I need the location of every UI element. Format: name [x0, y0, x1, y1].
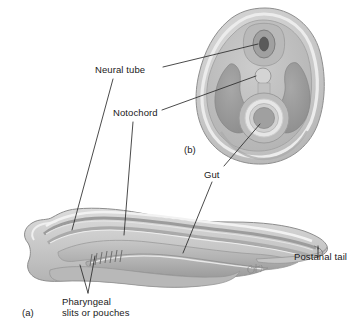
cross-section-group — [196, 8, 324, 164]
lateral-view-group — [25, 208, 328, 287]
leader-neural-tube-to-lv — [72, 79, 113, 230]
xs-notochord — [255, 68, 271, 84]
xs-neural-tube-lumen — [259, 37, 268, 51]
panel-tag-a: (a) — [22, 307, 34, 318]
diagram-artwork — [0, 0, 361, 330]
label-pharyngeal-slits: Pharyngeal slits or pouches — [62, 296, 130, 318]
xs-gut-lumen — [254, 108, 275, 129]
figure-chordate-body-plan: Neural tube Notochord Gut Postanal tail … — [0, 0, 361, 330]
label-gut: Gut — [204, 169, 220, 180]
panel-tag-b: (b) — [184, 144, 196, 155]
label-pharyngeal-line2: slits or pouches — [62, 307, 130, 318]
label-neural-tube: Neural tube — [95, 64, 145, 75]
label-pharyngeal-line1: Pharyngeal — [62, 296, 130, 307]
label-postanal-tail: Postanal tail — [294, 251, 347, 262]
label-notochord: Notochord — [113, 107, 158, 118]
